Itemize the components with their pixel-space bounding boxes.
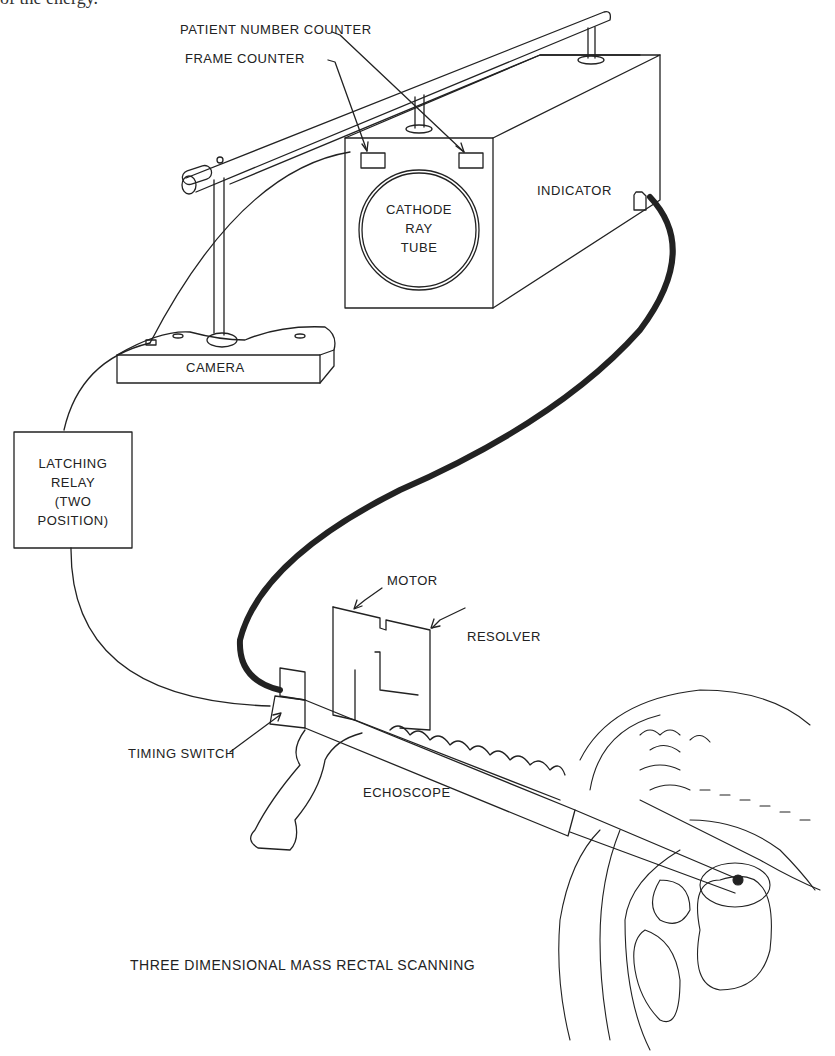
crt-line-2: RAY (384, 219, 454, 238)
crt-line-1: CATHODE (384, 200, 454, 219)
cabinet (345, 55, 660, 308)
wire-camera-to-counter (150, 152, 350, 343)
wire-camera-to-relay (64, 343, 150, 430)
camera-stand (181, 157, 237, 347)
label-frame-counter: FRAME COUNTER (185, 51, 305, 66)
echoscope (251, 607, 740, 893)
label-timing-switch: TIMING SWITCH (128, 746, 235, 761)
label-resolver: RESOLVER (467, 629, 541, 644)
label-camera: CAMERA (186, 360, 245, 375)
crt-line-3: TUBE (384, 238, 454, 257)
label-cathode-ray-tube: CATHODE RAY TUBE (384, 200, 454, 257)
figure-title: THREE DIMENSIONAL MASS RECTAL SCANNING (130, 957, 475, 973)
relay-line-4: POSITION) (14, 511, 132, 530)
indicator-cable (240, 197, 673, 690)
label-latching-relay: LATCHING RELAY (TWO POSITION) (14, 454, 132, 530)
relay-line-1: LATCHING (14, 454, 132, 473)
patient-number-counter-box (459, 153, 483, 168)
wire-relay-to-timing-switch (71, 548, 270, 706)
indicator-box (634, 192, 646, 210)
label-motor: MOTOR (387, 573, 438, 588)
frame-counter-box (361, 153, 385, 168)
label-indicator: INDICATOR (537, 183, 612, 198)
relay-line-2: RELAY (14, 473, 132, 492)
label-patient-number-counter: PATIENT NUMBER COUNTER (180, 22, 372, 37)
label-echoscope: ECHOSCOPE (363, 785, 451, 800)
relay-line-3: (TWO (14, 492, 132, 511)
pelvic-anatomy (559, 690, 820, 1050)
